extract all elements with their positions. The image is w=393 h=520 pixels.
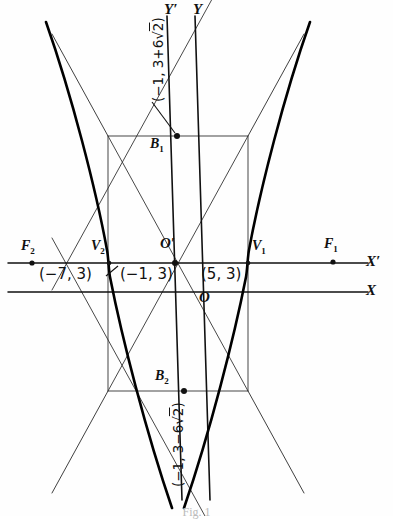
focus-2-letter: F [21,238,30,253]
vertex-1-subscript: 1 [261,246,266,256]
b2-coord-radicand: 2 [170,408,186,417]
vertex-1-coordinate: (5, 3) [201,267,241,282]
vertex-2-label: V2 [91,239,105,256]
b2-subscript: 2 [164,376,169,386]
origin-prime-coordinate: (−1, 3) [120,267,173,282]
b2-letter: B [155,368,164,383]
vertex-1-letter: V [252,238,261,253]
b1-coord-radical-sign: √ [150,31,166,40]
b1-coordinate: (−1, 3+6√2) [152,17,166,102]
vertex-2-letter: V [91,238,100,253]
focus-2-label: F2 [21,239,35,256]
focus-1-dot [330,259,335,264]
vertex-2-coordinate: (−7, 3) [39,267,92,282]
b1-coord-radicand: 2 [150,23,166,32]
b2-coord-suffix: ) [170,402,186,407]
asymptote-positive-slope [52,0,304,290]
origin-label: O [199,290,210,305]
b2-coord-prefix: (−1, 3−6 [170,425,186,487]
y-prime-axis-label: Y′ [164,2,177,17]
b2-label: B2 [155,369,169,386]
figure-caption: Fig. 1 [0,505,393,520]
focus-2-dot [29,260,34,265]
vertex-1-dot [246,261,251,266]
origin-prime-label: O′ [160,236,175,251]
b1-subscript: 1 [159,144,164,154]
b1-coord-prefix: (−1, 3+6 [150,40,166,102]
b1-label: B1 [150,137,164,154]
b1-leader [152,102,175,133]
y-axis [195,16,210,500]
b1-letter: B [150,136,159,151]
focus-1-subscript: 1 [333,244,338,254]
axis-group [8,16,368,500]
b2-coordinate: (−1, 3−6√2) [172,402,186,487]
x-prime-axis-label: X′ [366,254,380,269]
y-axis-label: Y [193,2,202,17]
focus-2-subscript: 2 [30,246,35,256]
b2-coord-radical-sign: √ [170,416,186,425]
focus-1-letter: F [324,236,333,251]
b1-coord-suffix: ) [150,17,166,22]
x-axis-label: X [366,283,376,298]
vertex-2-dot [107,261,112,266]
b2-dot [181,388,187,394]
vertex-1-label: V1 [252,239,266,256]
b1-dot [174,133,180,139]
vertex-2-subscript: 2 [100,246,105,256]
focus-1-label: F1 [324,237,338,254]
